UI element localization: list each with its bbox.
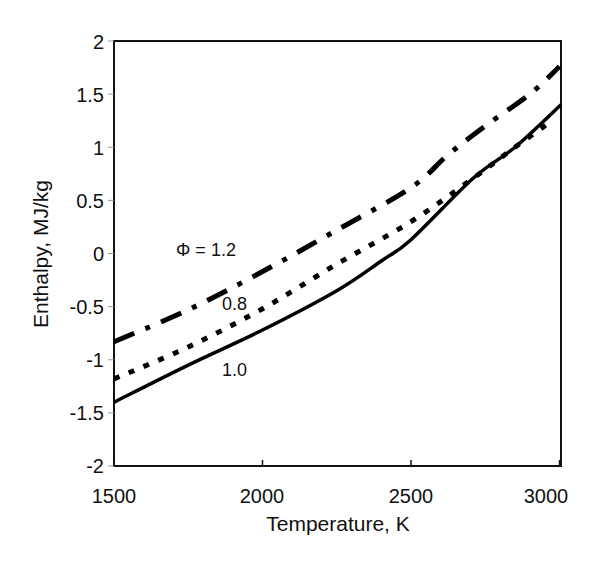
- x-tick-label: 2500: [389, 485, 434, 507]
- y-tick-label: 1: [93, 137, 104, 159]
- x-tick-labels: 1500 2000 2500 3000: [92, 485, 569, 507]
- y-tick-label: -1: [86, 349, 104, 371]
- x-tick-label: 1500: [92, 485, 137, 507]
- series-line-dash-dot: [114, 67, 560, 342]
- y-axis-title: Enthalpy, MJ/kg: [29, 180, 52, 328]
- annotation-phi-1-2: Φ = 1.2: [176, 240, 236, 260]
- y-tick-label: 2: [93, 31, 104, 53]
- y-tick-label: 1.5: [76, 84, 104, 106]
- x-axis-title: Temperature, K: [266, 512, 410, 535]
- annotation-1-0: 1.0: [222, 360, 247, 380]
- series-lines: [114, 67, 561, 403]
- x-tick-label: 3000: [524, 485, 569, 507]
- x-tick-label: 2000: [240, 485, 285, 507]
- y-tick-label: -2: [86, 455, 104, 477]
- y-tick-label: -0.5: [70, 296, 104, 318]
- annotation-0-8: 0.8: [222, 294, 247, 314]
- y-tick-label: -1.5: [70, 402, 104, 424]
- y-tick-labels: 2 1.5 1 0.5 0 -0.5 -1 -1.5 -2: [70, 31, 104, 477]
- enthalpy-chart: 2 1.5 1 0.5 0 -0.5 -1 -1.5 -2 1500 2000 …: [0, 0, 594, 563]
- y-tick-label: 0: [93, 243, 104, 265]
- y-tick-label: 0.5: [76, 190, 104, 212]
